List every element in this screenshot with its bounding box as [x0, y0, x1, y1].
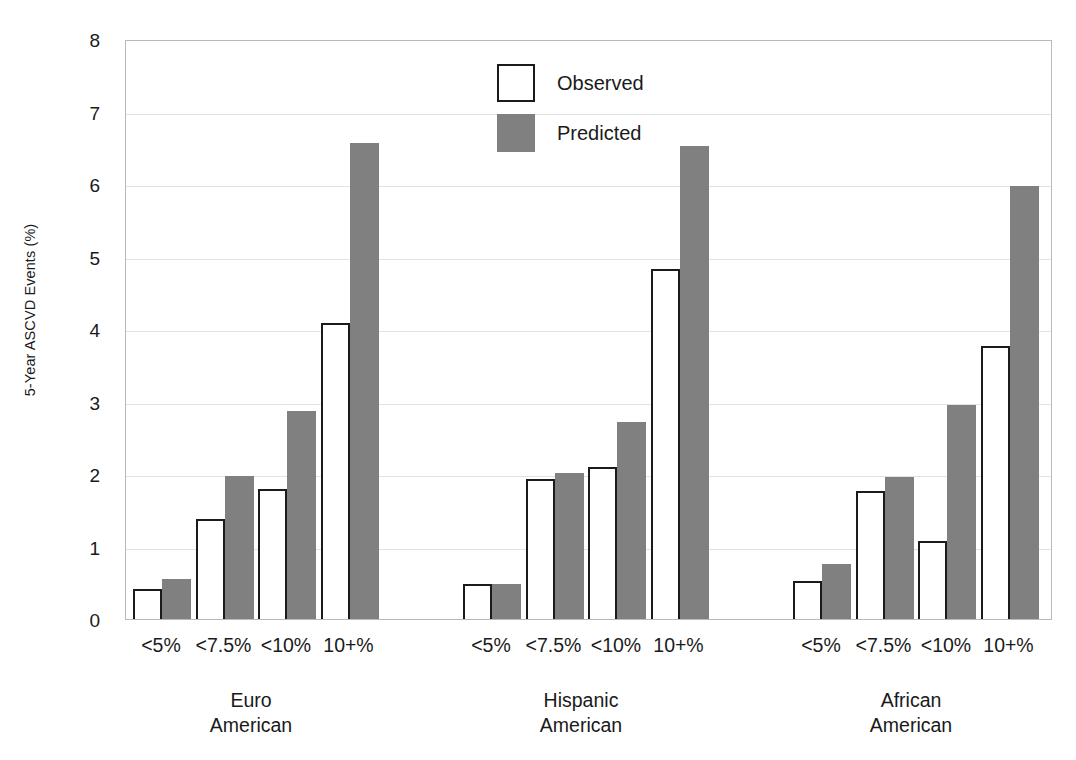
bar-predicted	[350, 143, 379, 619]
bar-observed	[856, 491, 885, 619]
bar-predicted	[492, 584, 521, 619]
bar-observed	[588, 467, 617, 619]
bar-observed	[981, 346, 1010, 619]
bar-observed	[321, 323, 350, 619]
bar-predicted	[1010, 186, 1039, 619]
x-tick-label: <7.5%	[856, 636, 912, 656]
bar-predicted	[555, 473, 584, 619]
group-label-line-2: American	[210, 713, 292, 738]
bar-observed	[463, 584, 492, 619]
group-label-line-1: Hispanic	[540, 688, 622, 713]
y-tick-label: 8	[58, 31, 100, 50]
x-tick-label: <5%	[801, 636, 841, 656]
group-label-line-1: Euro	[210, 688, 292, 713]
x-axis-group-label: HispanicAmerican	[540, 688, 622, 739]
y-tick-label: 1	[58, 538, 100, 557]
y-tick-label: 0	[58, 611, 100, 630]
bar-observed	[793, 581, 822, 619]
x-tick-label: <10%	[261, 636, 311, 656]
x-tick-label: 10+%	[323, 636, 373, 656]
bar-observed	[133, 589, 162, 619]
y-tick-label: 2	[58, 466, 100, 485]
bar-predicted	[162, 579, 191, 619]
bar-predicted	[885, 477, 914, 619]
x-tick-label: 10+%	[983, 636, 1033, 656]
group-label-line-1: African	[870, 688, 952, 713]
ascvd-events-bar-chart: 5-Year ASCVD Events (%) 012345678 Observ…	[0, 0, 1076, 760]
bar-predicted	[617, 422, 646, 619]
legend-label-observed: Observed	[557, 72, 644, 95]
y-tick-label: 7	[58, 103, 100, 122]
x-tick-label: 10+%	[653, 636, 703, 656]
bar-observed	[526, 479, 555, 619]
x-tick-label: <5%	[471, 636, 511, 656]
y-tick-label: 4	[58, 321, 100, 340]
x-tick-label: <5%	[141, 636, 181, 656]
x-tick-label: <7.5%	[526, 636, 582, 656]
x-tick-label: <10%	[591, 636, 641, 656]
group-label-line-2: American	[870, 713, 952, 738]
bar-observed	[651, 269, 680, 619]
bar-predicted	[225, 476, 254, 619]
bar-predicted	[680, 146, 709, 619]
legend-item-predicted: Predicted	[497, 108, 644, 158]
legend-swatch-observed-icon	[497, 64, 535, 102]
y-tick-label: 6	[58, 176, 100, 195]
x-axis-group-label: EuroAmerican	[210, 688, 292, 739]
bar-observed	[258, 489, 287, 619]
x-tick-label: <7.5%	[196, 636, 252, 656]
x-tick-label: <10%	[921, 636, 971, 656]
legend-item-observed: Observed	[497, 58, 644, 108]
y-axis-title: 5-Year ASCVD Events (%)	[0, 0, 60, 620]
y-axis-title-text: 5-Year ASCVD Events (%)	[22, 224, 38, 397]
bar-observed	[918, 541, 947, 619]
bar-predicted	[947, 405, 976, 619]
legend-label-predicted: Predicted	[557, 122, 642, 145]
y-tick-label: 5	[58, 248, 100, 267]
bar-predicted	[287, 411, 316, 619]
bar-predicted	[822, 564, 851, 619]
y-tick-label: 3	[58, 393, 100, 412]
group-label-line-2: American	[540, 713, 622, 738]
chart-legend: Observed Predicted	[497, 58, 644, 158]
legend-swatch-predicted-icon	[497, 114, 535, 152]
bar-observed	[196, 519, 225, 619]
x-axis-group-label: AfricanAmerican	[870, 688, 952, 739]
